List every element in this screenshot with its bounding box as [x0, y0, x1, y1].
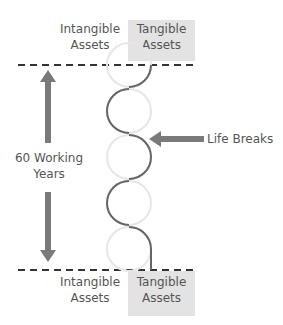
left-arrow-icon [149, 131, 204, 147]
working-years-label: 60 Working Years [10, 150, 88, 182]
up-arrow-icon [40, 70, 56, 143]
working-years-line2: Years [10, 166, 88, 182]
working-years-line1: 60 Working [10, 150, 88, 166]
down-arrow-icon [40, 192, 56, 262]
light-arcs [107, 43, 151, 271]
life-breaks-label: Life Breaks [207, 131, 273, 147]
